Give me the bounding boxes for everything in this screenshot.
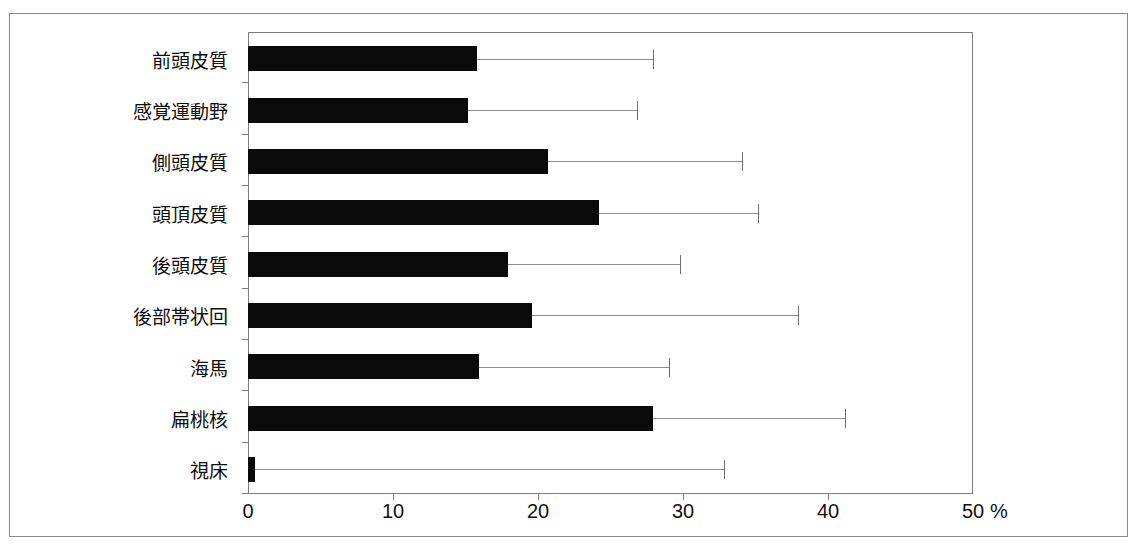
error-bar-cap <box>798 306 799 325</box>
error-bar-cap <box>758 204 759 223</box>
bar-7 <box>248 354 479 379</box>
category-label-3: 側頭皮質 <box>152 148 228 175</box>
category-label-9: 視床 <box>190 456 228 483</box>
x-axis-tick <box>683 493 684 500</box>
x-tick-label-40: 40 <box>817 500 839 523</box>
bar-6 <box>248 303 532 328</box>
x-axis-tick <box>538 493 539 500</box>
x-tick-label-10: 10 <box>382 500 404 523</box>
category-label-1: 前頭皮質 <box>152 46 228 73</box>
y-axis-tick <box>242 288 248 289</box>
y-axis-tick <box>242 493 248 494</box>
x-axis-unit-label: % <box>990 500 1008 523</box>
x-axis-tick <box>828 493 829 500</box>
category-label-6: 後部帯状回 <box>133 302 228 329</box>
x-axis-tick-labels: 01020304050 <box>248 500 973 530</box>
bar-4 <box>248 200 599 225</box>
category-label-7: 海馬 <box>190 354 228 381</box>
category-label-column: 前頭皮質感覚運動野側頭皮質頭頂皮質後頭皮質後部帯状回海馬扁桃核視床 <box>0 32 228 494</box>
y-axis-tick <box>242 185 248 186</box>
bar-8 <box>248 406 653 431</box>
error-bar-cap <box>669 358 670 377</box>
category-label-2: 感覚運動野 <box>133 97 228 124</box>
error-bar-cap <box>637 101 638 120</box>
y-axis-tick <box>242 339 248 340</box>
error-bar-cap <box>845 409 846 428</box>
bar-3 <box>248 149 548 174</box>
y-axis-tick <box>242 236 248 237</box>
y-axis-tick <box>242 134 248 135</box>
error-bar-cap <box>680 255 681 274</box>
x-tick-label-50: 50 <box>962 500 984 523</box>
error-bar-cap <box>653 50 654 69</box>
y-axis-tick <box>242 390 248 391</box>
bar-5 <box>248 252 508 277</box>
bar-2 <box>248 98 468 123</box>
figure-container: 前頭皮質感覚運動野側頭皮質頭頂皮質後頭皮質後部帯状回海馬扁桃核視床 010203… <box>0 0 1138 555</box>
x-tick-label-20: 20 <box>527 500 549 523</box>
y-axis-tick <box>242 442 248 443</box>
error-bar-cap <box>724 460 725 479</box>
category-label-8: 扁桃核 <box>171 405 228 432</box>
plot-area <box>248 32 973 494</box>
error-bar-cap <box>742 152 743 171</box>
category-label-4: 頭頂皮質 <box>152 200 228 227</box>
x-axis-tick <box>393 493 394 500</box>
y-axis-tick <box>242 82 248 83</box>
bar-1 <box>248 46 477 71</box>
bar-9 <box>248 457 255 482</box>
x-tick-label-30: 30 <box>672 500 694 523</box>
x-tick-label-0: 0 <box>242 500 253 523</box>
error-bar-line <box>248 469 724 470</box>
category-label-5: 後頭皮質 <box>152 251 228 278</box>
